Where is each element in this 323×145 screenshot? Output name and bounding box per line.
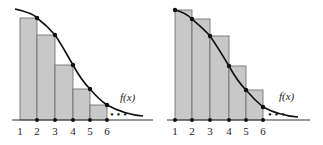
ellipsis: • • • xyxy=(110,108,127,120)
bar-5 xyxy=(90,105,107,120)
x-tick-labels: 1 2 3 4 5 6 xyxy=(172,125,266,137)
svg-text:4: 4 xyxy=(70,125,76,137)
bars xyxy=(175,10,263,120)
bar-4 xyxy=(73,89,90,120)
svg-text:5: 5 xyxy=(87,125,93,137)
bar-1 xyxy=(175,10,192,120)
svg-text:2: 2 xyxy=(34,125,40,137)
bar-1 xyxy=(20,18,37,120)
svg-text:2: 2 xyxy=(189,125,195,137)
svg-text:3: 3 xyxy=(52,125,58,137)
right-panel: f(x) • • • 1 2 3 4 5 6 xyxy=(167,8,310,137)
svg-text:6: 6 xyxy=(260,125,266,137)
bar-3 xyxy=(55,65,73,120)
function-label: f(x) xyxy=(120,91,136,104)
svg-text:4: 4 xyxy=(226,125,232,137)
bar-3 xyxy=(210,36,229,120)
bars xyxy=(20,18,107,120)
bar-4 xyxy=(229,66,246,120)
svg-text:1: 1 xyxy=(172,125,178,137)
svg-text:1: 1 xyxy=(17,125,23,137)
ellipsis: • • • xyxy=(268,108,285,120)
svg-text:3: 3 xyxy=(207,125,213,137)
svg-text:6: 6 xyxy=(104,125,110,137)
function-label: f(x) xyxy=(279,90,295,103)
x-tick-labels: 1 2 3 4 5 6 xyxy=(17,125,110,137)
left-panel: f(x) • • • 1 2 3 4 5 6 xyxy=(12,9,153,137)
svg-text:5: 5 xyxy=(243,125,249,137)
figure: f(x) • • • 1 2 3 4 5 6 f(x) • xyxy=(0,0,323,145)
bar-2 xyxy=(37,35,55,120)
